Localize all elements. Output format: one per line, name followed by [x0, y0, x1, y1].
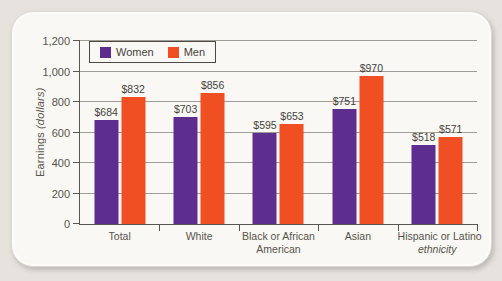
figure-card: Earnings (dollars) 02004006008001,0001,2… [11, 11, 492, 267]
bar-group-black-or-african-american: $595$653 [239, 41, 318, 224]
y-tick-label: 200 [52, 188, 70, 200]
bar-women-asian: $751 [332, 109, 356, 224]
bars-hispanic-or-latino: $518$571 [412, 41, 463, 224]
bar-women-white: $703 [174, 117, 198, 224]
x-category-label-total: Total [80, 230, 159, 243]
bar-women-hispanic-or-latino: $518 [412, 145, 436, 224]
value-label-men-white: $856 [201, 79, 224, 91]
y-tick-label: 400 [52, 157, 70, 169]
y-tick-label: 1,000 [42, 66, 70, 78]
legend-item-women: Women [100, 46, 154, 58]
x-category-label-line: ethnicity [398, 243, 477, 256]
x-category-label-line: American [239, 243, 318, 256]
x-category-label-line: Asian [318, 230, 397, 243]
x-category-label-line: Total [80, 230, 159, 243]
legend-label-men: Men [184, 46, 205, 58]
bars-asian: $751$970 [332, 41, 383, 224]
value-label-women-asian: $751 [333, 95, 356, 107]
value-label-women-hispanic-or-latino: $518 [412, 131, 435, 143]
y-tick-label: 0 [64, 218, 70, 230]
legend: WomenMen [89, 41, 216, 63]
bar-women-total: $684 [94, 120, 118, 224]
value-label-women-black-or-african-american: $595 [253, 119, 276, 131]
bars-white: $703$856 [174, 41, 225, 224]
bar-group-hispanic-or-latino: $518$571 [398, 41, 477, 224]
bar-men-black-or-african-american: $653 [280, 124, 304, 224]
y-tick-labels: 02004006008001,0001,200 [17, 41, 77, 224]
y-tick-label: 800 [52, 96, 70, 108]
bars-black-or-african-american: $595$653 [253, 41, 304, 224]
plot-area: WomenMen $684$832Total$703$856White$595$… [79, 41, 477, 225]
y-tick-mark [73, 193, 80, 194]
y-tick-mark [73, 101, 80, 102]
value-label-women-white: $703 [174, 103, 197, 115]
bar-men-hispanic-or-latino: $571 [439, 137, 463, 224]
bar-men-white: $856 [201, 93, 225, 224]
value-label-men-hispanic-or-latino: $571 [439, 123, 462, 135]
y-tick-mark [73, 40, 80, 41]
legend-swatch-men [168, 47, 179, 58]
x-category-label-line: Hispanic or Latino [398, 230, 477, 243]
legend-label-women: Women [116, 46, 154, 58]
y-tick-mark [73, 162, 80, 163]
value-label-men-black-or-african-american: $653 [280, 110, 303, 122]
x-category-label-black-or-african-american: Black or AfricanAmerican [239, 230, 318, 256]
x-category-label-hispanic-or-latino: Hispanic or Latinoethnicity [398, 230, 477, 256]
y-tick-mark [73, 132, 80, 133]
bar-group-total: $684$832 [80, 41, 159, 224]
bar-group-white: $703$856 [159, 41, 238, 224]
x-category-label-asian: Asian [318, 230, 397, 243]
y-tick-label: 1,200 [42, 35, 70, 47]
legend-item-men: Men [168, 46, 205, 58]
bar-group-asian: $751$970 [318, 41, 397, 224]
x-category-label-line: White [159, 230, 238, 243]
value-label-women-total: $684 [95, 106, 118, 118]
bar-women-black-or-african-american: $595 [253, 133, 277, 224]
bar-men-asian: $970 [359, 76, 383, 224]
x-category-label-white: White [159, 230, 238, 243]
y-tick-label: 600 [52, 127, 70, 139]
y-tick-mark [73, 223, 80, 224]
bars-total: $684$832 [94, 41, 145, 224]
value-label-men-total: $832 [122, 83, 145, 95]
legend-swatch-women [100, 47, 111, 58]
x-category-label-line: Black or African [239, 230, 318, 243]
y-tick-mark [73, 71, 80, 72]
value-label-men-asian: $970 [360, 62, 383, 74]
bar-men-total: $832 [121, 97, 145, 224]
